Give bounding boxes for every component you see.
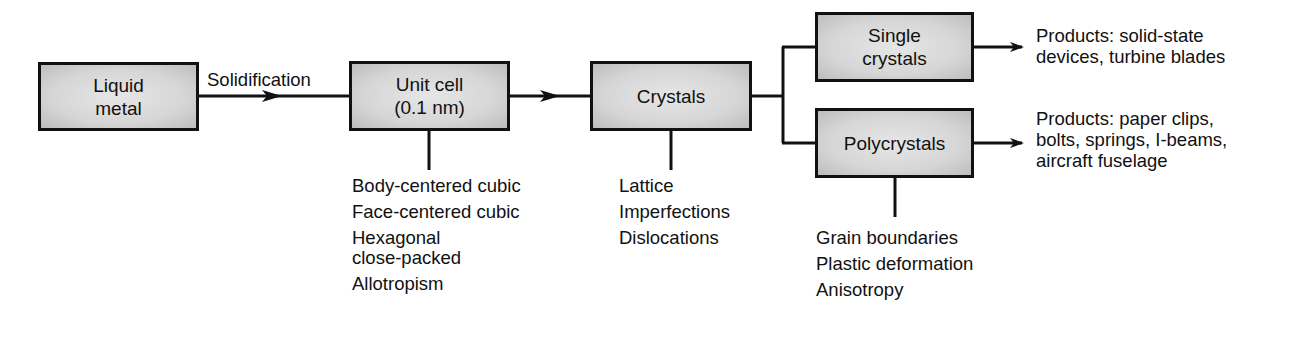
node-crystals: Crystals — [590, 61, 752, 131]
node-polycrystals-label: Polycrystals — [844, 132, 945, 155]
list-item: Dislocations — [619, 228, 730, 248]
crystal-properties: Lattice Imperfections Dislocations — [619, 176, 730, 254]
list-item: Plastic deformation — [816, 254, 973, 274]
node-unit-cell: Unit cell (0.1 nm) — [349, 61, 510, 131]
node-polycrystals: Polycrystals — [815, 108, 974, 178]
node-liquid-metal: Liquid metal — [38, 62, 199, 131]
products-single-crystals: Products: solid-state devices, turbine b… — [1036, 25, 1225, 67]
list-item: Allotropism — [352, 274, 521, 294]
unit-cell-properties: Body-centered cubic Face-centered cubic … — [352, 176, 521, 300]
node-crystals-label: Crystals — [637, 85, 706, 108]
list-item: Hexagonal close-packed — [352, 228, 521, 268]
node-unit-cell-label: Unit cell (0.1 nm) — [394, 73, 465, 119]
products-polycrystals: Products: paper clips, bolts, springs, I… — [1036, 108, 1227, 171]
list-item: Imperfections — [619, 202, 730, 222]
node-single-crystals-label: Single crystals — [862, 24, 926, 70]
node-liquid-metal-label: Liquid metal — [93, 74, 144, 120]
node-single-crystals: Single crystals — [815, 12, 974, 82]
list-item: Body-centered cubic — [352, 176, 521, 196]
list-item: Grain boundaries — [816, 228, 973, 248]
list-item: Anisotropy — [816, 280, 973, 300]
edge-label-solidification: Solidification — [207, 69, 311, 91]
polycrystal-properties: Grain boundaries Plastic deformation Ani… — [816, 228, 973, 306]
list-item: Lattice — [619, 176, 730, 196]
list-item: Face-centered cubic — [352, 202, 521, 222]
